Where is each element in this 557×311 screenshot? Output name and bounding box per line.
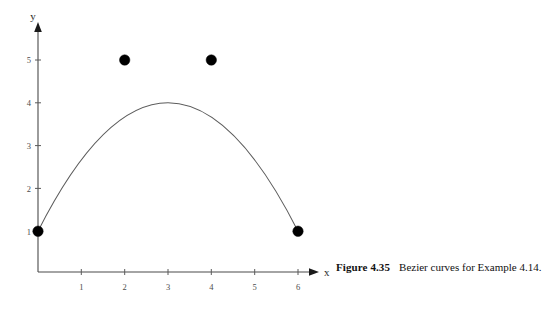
plot-area: 1 2 3 4 5 6 1 2 3 4 5 [0,0,340,311]
y-axis-title: y [30,10,36,22]
bezier-plot-svg: 1 2 3 4 5 6 1 2 3 4 5 [0,0,340,311]
x-tick-label: 5 [253,282,257,292]
y-tick-label: 2 [27,184,31,194]
figure-caption-text: Bezier curves for Example 4.14. [399,261,541,273]
bezier-curve-path [38,103,298,231]
y-tick-label: 1 [27,227,31,237]
y-tick-label: 3 [27,141,31,151]
control-point-p2[interactable] [206,55,216,65]
figure-caption-label: Figure 4.35 [336,261,390,273]
x-axis-tick-labels: 1 2 3 4 5 6 [79,282,300,292]
figure-container: 1 2 3 4 5 6 1 2 3 4 5 [0,0,557,311]
control-point-p1[interactable] [120,55,130,65]
x-tick-label: 6 [296,282,300,292]
x-axis-arrow-icon [309,268,319,276]
x-axis-title: x [324,266,330,278]
x-tick-label: 1 [79,282,83,292]
y-tick-label: 5 [27,55,31,65]
control-point-p3[interactable] [293,226,303,236]
x-tick-label: 3 [166,282,170,292]
control-point-p0[interactable] [33,226,43,236]
y-axis-arrow-icon [34,22,42,32]
figure-caption: Figure 4.35Bezier curves for Example 4.1… [336,261,550,274]
y-tick-label: 4 [27,98,32,108]
y-axis-tick-labels: 1 2 3 4 5 [27,55,32,236]
x-tick-label: 4 [209,282,214,292]
x-tick-label: 2 [123,282,127,292]
